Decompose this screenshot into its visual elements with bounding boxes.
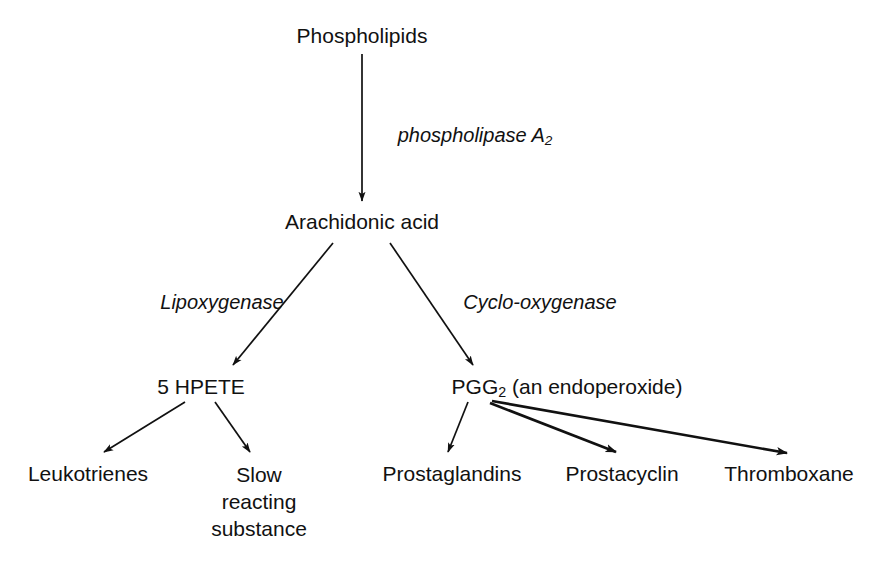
node-slow-reacting-substance-line-3: substance (211, 515, 307, 542)
node-slow-reacting-substance: Slow reacting substance (211, 461, 307, 542)
node-prostaglandins: Prostaglandins (383, 461, 522, 487)
arrow-pgg2-to-prostaglandins (448, 402, 468, 452)
node-arachidonic-acid: Arachidonic acid (285, 209, 439, 235)
node-pgg2: PGG2 (an endoperoxide) (452, 374, 683, 405)
arrow-pgg2-to-prostacyclin (490, 403, 616, 452)
node-phospholipids-label: Phospholipids (297, 24, 428, 47)
enzyme-lipoxygenase-label: Lipoxygenase (160, 291, 283, 313)
node-prostaglandins-label: Prostaglandins (383, 462, 522, 485)
arrow-hpete-to-leukotrienes (104, 402, 185, 452)
node-leukotrienes-label: Leukotrienes (28, 462, 148, 485)
enzyme-phospholipase-a2-subscript: 2 (545, 133, 553, 148)
node-arachidonic-acid-label: Arachidonic acid (285, 210, 439, 233)
pathway-diagram: Phospholipids phospholipase A2 Arachidon… (0, 0, 881, 561)
enzyme-phospholipase-a2: phospholipase A2 (398, 124, 553, 148)
enzyme-lipoxygenase: Lipoxygenase (160, 291, 283, 314)
node-5-hpete-label: 5 HPETE (157, 375, 245, 398)
node-leukotrienes: Leukotrienes (28, 461, 148, 487)
enzyme-cyclo-oxygenase-label: Cyclo-oxygenase (463, 291, 616, 313)
enzyme-phospholipase-a2-label: phospholipase A (398, 124, 545, 146)
node-thromboxane-label: Thromboxane (724, 462, 854, 485)
node-slow-reacting-substance-line-2: reacting (211, 488, 307, 515)
arrow-pgg2-to-thromboxane (492, 401, 787, 453)
node-thromboxane: Thromboxane (724, 461, 854, 487)
node-5-hpete: 5 HPETE (157, 374, 245, 400)
enzyme-cyclo-oxygenase: Cyclo-oxygenase (463, 291, 616, 314)
node-phospholipids: Phospholipids (297, 23, 428, 49)
node-slow-reacting-substance-line-1: Slow (211, 461, 307, 488)
node-prostacyclin: Prostacyclin (565, 461, 678, 487)
node-prostacyclin-label: Prostacyclin (565, 462, 678, 485)
node-pgg2-subscript: 2 (498, 384, 506, 400)
node-pgg2-suffix: (an endoperoxide) (506, 375, 682, 398)
arrow-hpete-to-slow-reacting-substance (215, 402, 250, 452)
arrow-arachidonic-to-pgg2 (390, 243, 473, 365)
node-pgg2-label: PGG (452, 375, 499, 398)
